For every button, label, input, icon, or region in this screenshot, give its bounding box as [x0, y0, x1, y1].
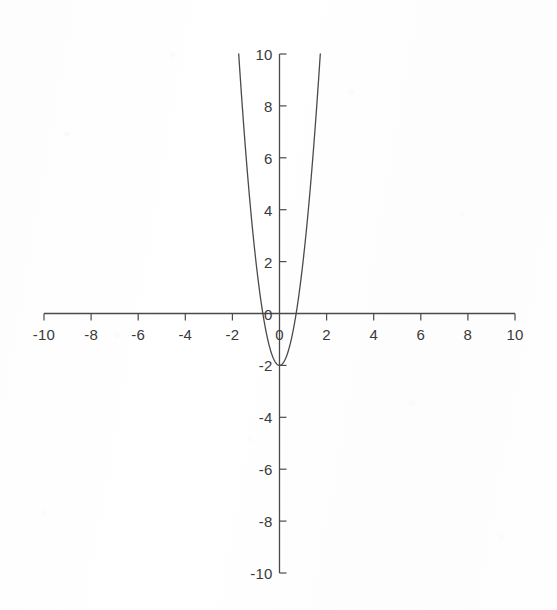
x-tick-label: -8 — [84, 326, 98, 343]
x-tick-label: 8 — [464, 326, 473, 343]
chart-canvas — [0, 0, 557, 610]
y-tick-label: -10 — [250, 565, 272, 582]
y-tick-label: 8 — [264, 97, 273, 114]
chart-plot-area: -10-8-6-4-20246810 1086420-2-4-6-8-10 — [0, 0, 557, 610]
x-tick-label: -4 — [178, 326, 192, 343]
y-tick-label: 4 — [264, 201, 273, 218]
y-tick-label: 10 — [255, 46, 272, 63]
x-tick-label: -2 — [226, 326, 240, 343]
axis-group — [44, 54, 515, 573]
x-tick-label: 10 — [506, 326, 523, 343]
x-tick-label: 0 — [275, 326, 284, 343]
y-tick-label: 6 — [264, 149, 273, 166]
y-tick-label: -8 — [259, 513, 273, 530]
y-tick-label: -6 — [259, 461, 273, 478]
x-tick-label: 6 — [417, 326, 426, 343]
y-tick-label: -4 — [259, 409, 273, 426]
y-tick-label: 0 — [264, 305, 273, 322]
x-tick-label: 4 — [369, 326, 378, 343]
y-tick-label: 2 — [264, 253, 273, 270]
x-tick-label: -6 — [131, 326, 145, 343]
x-tick-label: 2 — [322, 326, 331, 343]
x-tick-label: -10 — [33, 326, 55, 343]
y-tick-label: -2 — [259, 357, 273, 374]
